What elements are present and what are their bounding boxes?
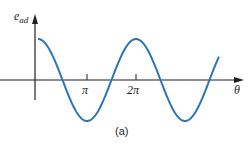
y-label-sub: ad [19, 15, 28, 25]
y-axis-arrow-icon [32, 14, 38, 24]
y-axis-label: ead [14, 10, 28, 25]
figure-caption: (a) [115, 125, 128, 137]
tick-label-2pi: 2π [127, 84, 139, 96]
x-axis-label: θ [234, 84, 240, 96]
tick-label-pi: π [82, 84, 88, 96]
